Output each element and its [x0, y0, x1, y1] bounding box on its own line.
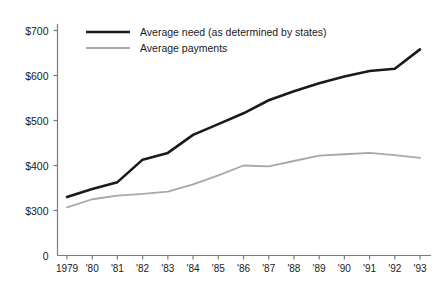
x-tick-label: '91 [363, 263, 376, 274]
legend-label: Average payments [140, 42, 227, 54]
chart-series [67, 49, 420, 207]
chart-axes [58, 24, 432, 256]
x-tick-label: '93 [413, 263, 426, 274]
x-tick-label: '88 [287, 263, 300, 274]
y-tick-label: $600 [25, 70, 49, 82]
y-tick-label: $700 [25, 25, 49, 37]
series-line-average-need [67, 49, 420, 197]
y-tick-label: $300 [25, 205, 49, 217]
y-tick-label: $500 [25, 115, 49, 127]
x-tick-label: '82 [136, 263, 149, 274]
x-tick-label: '84 [187, 263, 200, 274]
x-tick-label: '85 [212, 263, 225, 274]
legend-label: Average need (as determined by states) [140, 26, 327, 38]
x-tick-label: '92 [388, 263, 401, 274]
x-tick-label: '80 [86, 263, 99, 274]
x-tick-label: '81 [111, 263, 124, 274]
chart-canvas: $300$400$500$600$70001979'80'81'82'83'84… [0, 0, 437, 289]
y-axis-zero-label: 0 [43, 250, 49, 262]
y-tick-label: $400 [25, 160, 49, 172]
x-tick-label: 1979 [56, 263, 79, 274]
x-tick-label: '90 [338, 263, 351, 274]
chart-legend: Average need (as determined by states)Av… [86, 26, 327, 54]
x-tick-label: '89 [313, 263, 326, 274]
x-tick-label: '86 [237, 263, 250, 274]
x-tick-label: '87 [262, 263, 275, 274]
y-axis-ticks: $300$400$500$600$7000 [25, 25, 57, 262]
x-tick-label: '83 [161, 263, 174, 274]
x-axis-ticks: 1979'80'81'82'83'84'85'86'87'88'89'90'91… [56, 256, 427, 274]
line-chart: $300$400$500$600$70001979'80'81'82'83'84… [0, 0, 437, 289]
